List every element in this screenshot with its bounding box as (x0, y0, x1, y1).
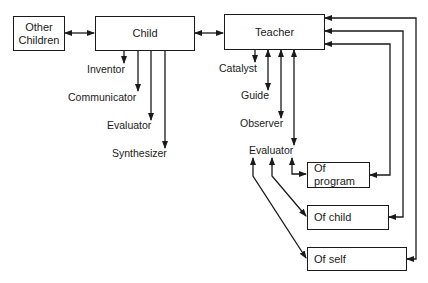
label-teacher-evaluator: Evaluator (249, 144, 293, 156)
label-observer: Observer (240, 117, 283, 129)
edge-of-program-teacher (325, 44, 390, 175)
edge-of-child-teacher (325, 31, 403, 217)
node-other-children-line2: Children (19, 34, 60, 47)
label-communicator: Communicator (68, 91, 136, 103)
node-of-program-label: Of program (314, 162, 369, 188)
node-other-children-line1: Other (19, 21, 60, 34)
node-other-children: Other Children (13, 16, 65, 51)
label-child-evaluator: Evaluator (107, 119, 151, 131)
node-of-program: Of program (307, 162, 370, 188)
node-teacher: Teacher (224, 14, 325, 50)
node-child-label: Child (132, 27, 157, 40)
label-catalyst: Catalyst (219, 62, 257, 74)
edge-evaluator-of-child (272, 158, 306, 216)
edge-evaluator-of-program (292, 158, 306, 174)
node-of-self: Of self (307, 247, 407, 271)
node-of-child-label: Of child (314, 211, 351, 224)
node-of-self-label: Of self (314, 253, 346, 266)
edge-evaluator-of-self (253, 158, 306, 258)
node-child: Child (95, 16, 195, 51)
label-inventor: Inventor (87, 63, 125, 75)
node-of-child: Of child (307, 205, 389, 230)
label-guide: Guide (241, 89, 269, 101)
label-synthesizer: Synthesizer (112, 147, 167, 159)
node-teacher-label: Teacher (255, 26, 294, 39)
